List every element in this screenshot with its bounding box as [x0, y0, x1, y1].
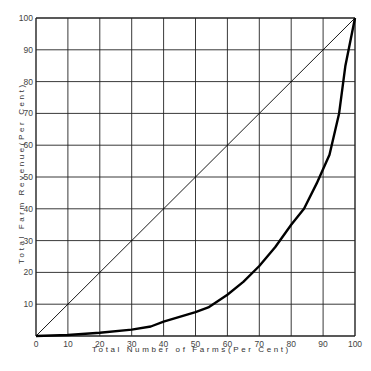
y-tick-label: 90	[24, 45, 34, 55]
x-tick-label: 100	[348, 339, 362, 349]
x-tick-label: 0	[34, 339, 39, 349]
lorenz-chart: 0102030405060708090100 10203040506070809…	[0, 0, 371, 371]
y-tick-label: 100	[19, 13, 33, 23]
y-axis-label: Total Farm Revenue(Per Cent)	[17, 82, 26, 264]
y-tick-label: 10	[24, 299, 34, 309]
x-tick-label: 10	[63, 339, 73, 349]
y-tick-label: 20	[24, 267, 34, 277]
x-tick-label: 90	[318, 339, 328, 349]
x-axis-label: Total Number of Farms(Per Cent)	[92, 345, 291, 354]
